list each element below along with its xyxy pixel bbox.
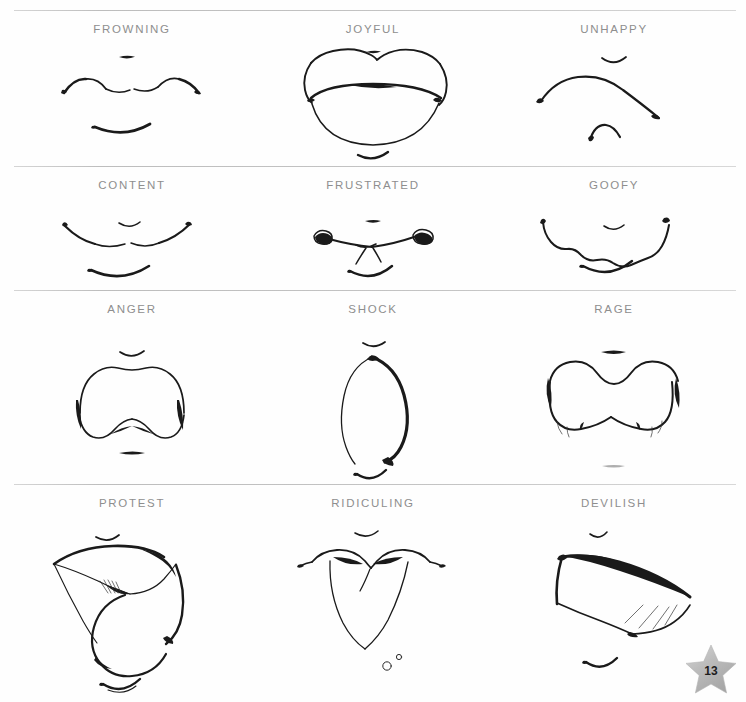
- anger-mouth-art: [12, 316, 252, 476]
- ridiculing-mouth-art: [253, 510, 493, 680]
- expression-label-rage: RAGE: [494, 302, 734, 316]
- expression-cell-protest[interactable]: PROTEST: [12, 496, 252, 700]
- expression-cell-joyful[interactable]: JOYFUL: [253, 22, 493, 166]
- rage-mouth-art: [494, 316, 734, 476]
- expression-cell-frustrated[interactable]: FRUSTRATED: [253, 178, 493, 292]
- expression-label-devilish: DEVILISH: [494, 496, 734, 510]
- expression-label-content: CONTENT: [12, 178, 252, 192]
- expression-label-frustrated: FRUSTRATED: [253, 178, 493, 192]
- content-mouth-art: [12, 192, 252, 292]
- expression-label-joyful: JOYFUL: [253, 22, 493, 36]
- expression-label-anger: ANGER: [12, 302, 252, 316]
- reference-sheet-page: FROWNING JOYFUL: [0, 0, 746, 702]
- expression-label-frowning: FROWNING: [12, 22, 252, 36]
- expression-cell-goofy[interactable]: GOOFY: [494, 178, 734, 292]
- goofy-mouth-art: [494, 192, 734, 292]
- expression-label-goofy: GOOFY: [494, 178, 734, 192]
- expression-cell-unhappy[interactable]: UNHAPPY: [494, 22, 734, 156]
- row-separator-2: [14, 166, 736, 167]
- shock-mouth-art: [253, 316, 493, 486]
- row-separator-1: [14, 10, 736, 11]
- protest-mouth-art: [12, 510, 252, 700]
- expression-label-shock: SHOCK: [253, 302, 493, 316]
- frustrated-mouth-art: [253, 192, 493, 292]
- expression-cell-anger[interactable]: ANGER: [12, 302, 252, 476]
- page-number-badge: 13: [682, 642, 740, 698]
- expression-label-ridiculing: RIDICULING: [253, 496, 493, 510]
- expression-cell-content[interactable]: CONTENT: [12, 178, 252, 292]
- expression-cell-rage[interactable]: RAGE: [494, 302, 734, 476]
- expression-cell-shock[interactable]: SHOCK: [253, 302, 493, 486]
- joyful-mouth-art: [253, 36, 493, 166]
- expression-cell-frowning[interactable]: FROWNING: [12, 22, 252, 156]
- frowning-mouth-art: [12, 36, 252, 156]
- page-number-text: 13: [682, 664, 740, 678]
- expression-label-unhappy: UNHAPPY: [494, 22, 734, 36]
- unhappy-mouth-art: [494, 36, 734, 156]
- expression-label-protest: PROTEST: [12, 496, 252, 510]
- expression-cell-ridiculing[interactable]: RIDICULING: [253, 496, 493, 680]
